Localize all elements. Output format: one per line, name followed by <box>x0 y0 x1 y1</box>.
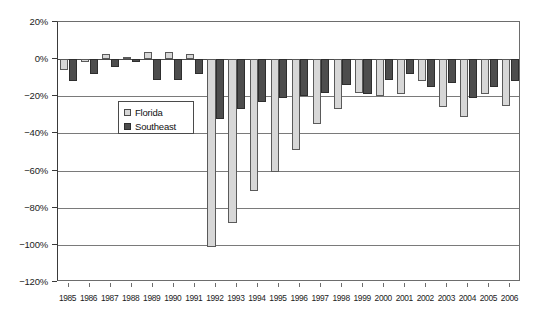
y-axis-tick-label: −40% <box>24 127 48 138</box>
plot-area: Florida Southeast <box>57 21 520 281</box>
legend-swatch-florida <box>124 109 131 116</box>
bar-southeast-1987 <box>111 59 119 66</box>
x-axis-tick-label-1991: 1991 <box>185 293 202 303</box>
legend-item-southeast: Southeast <box>124 119 189 133</box>
bar-florida-1992 <box>207 59 215 247</box>
bar-southeast-1988 <box>132 59 140 62</box>
x-axis-tick-label-2003: 2003 <box>438 293 455 303</box>
bar-florida-2002 <box>418 59 426 81</box>
x-axis-tick-mark <box>131 283 132 287</box>
x-axis-tick-mark <box>488 283 489 287</box>
y-axis-tick-label: −20% <box>24 90 48 101</box>
y-axis-tick-label: −120% <box>19 276 48 287</box>
bar-florida-2003 <box>439 59 447 107</box>
x-axis-tick-label-1995: 1995 <box>269 293 286 303</box>
bar-florida-1989 <box>144 52 152 59</box>
bar-southeast-2005 <box>490 59 498 87</box>
x-axis-tick-label-2001: 2001 <box>396 293 413 303</box>
x-axis-tick-label-1999: 1999 <box>354 293 371 303</box>
legend-label-southeast: Southeast <box>135 121 176 132</box>
x-axis-tick-label-1990: 1990 <box>164 293 181 303</box>
x-axis-tick-mark <box>362 283 363 287</box>
gridline <box>58 245 519 246</box>
x-axis-tick-mark <box>341 283 342 287</box>
x-axis-tick-mark <box>509 283 510 287</box>
bar-florida-1985 <box>60 59 68 70</box>
x-axis-tick-mark <box>446 283 447 287</box>
bar-southeast-2002 <box>427 59 435 87</box>
x-axis-tick-label-1989: 1989 <box>143 293 160 303</box>
bar-southeast-1995 <box>279 59 287 98</box>
x-axis-tick-label-2006: 2006 <box>501 293 518 303</box>
bar-southeast-2006 <box>511 59 519 81</box>
bar-southeast-1993 <box>237 59 245 109</box>
bar-florida-2001 <box>397 59 405 94</box>
x-axis-tick-mark <box>89 283 90 287</box>
bar-florida-1993 <box>228 59 236 222</box>
bar-florida-1996 <box>292 59 300 150</box>
bar-southeast-2001 <box>406 59 414 74</box>
bar-florida-1988 <box>123 57 131 59</box>
x-axis-tick-mark <box>68 283 69 287</box>
bar-florida-1999 <box>355 59 363 92</box>
x-axis-tick-label-1993: 1993 <box>227 293 244 303</box>
bar-southeast-1992 <box>216 59 224 118</box>
x-axis-tick-mark <box>299 283 300 287</box>
x-axis-tick-label-1996: 1996 <box>290 293 307 303</box>
x-axis-tick-label-1988: 1988 <box>122 293 139 303</box>
bar-florida-1991 <box>186 54 194 60</box>
x-axis-tick-label-2005: 2005 <box>480 293 497 303</box>
bar-southeast-1986 <box>90 59 98 74</box>
x-axis-tick-mark <box>152 283 153 287</box>
x-axis-tick-mark <box>467 283 468 287</box>
bar-florida-1995 <box>271 59 279 172</box>
legend-label-florida: Florida <box>135 107 163 118</box>
bar-florida-1997 <box>313 59 321 124</box>
bar-southeast-1998 <box>342 59 350 85</box>
x-axis-tick-mark <box>425 283 426 287</box>
bar-southeast-1996 <box>300 59 308 96</box>
x-axis-tick-label-1985: 1985 <box>59 293 76 303</box>
x-axis-tick-mark <box>194 283 195 287</box>
gridline <box>58 171 519 172</box>
x-axis-tick-mark <box>110 283 111 287</box>
bar-southeast-1990 <box>174 59 182 79</box>
bar-florida-1986 <box>81 59 89 62</box>
y-axis-tick-label: 0% <box>35 53 48 64</box>
bar-florida-1994 <box>250 59 258 191</box>
bar-florida-1998 <box>334 59 342 109</box>
bar-southeast-1999 <box>363 59 371 94</box>
gridline <box>58 96 519 97</box>
bar-southeast-2000 <box>385 59 393 79</box>
bar-florida-1987 <box>102 54 110 60</box>
legend-swatch-southeast <box>124 123 131 130</box>
y-axis-tick-label: −100% <box>19 238 48 249</box>
x-axis: 1985198619871988198919901991199219931994… <box>57 283 520 313</box>
x-axis-tick-label-1986: 1986 <box>80 293 97 303</box>
gridline <box>58 208 519 209</box>
bar-southeast-1997 <box>321 59 329 92</box>
x-axis-tick-label-1994: 1994 <box>248 293 265 303</box>
x-axis-tick-mark <box>257 283 258 287</box>
bar-florida-2000 <box>376 59 384 96</box>
x-axis-tick-label-1998: 1998 <box>332 293 349 303</box>
x-axis-tick-mark <box>320 283 321 287</box>
x-axis-tick-label-1997: 1997 <box>311 293 328 303</box>
x-axis-tick-label-1987: 1987 <box>101 293 118 303</box>
bar-florida-2006 <box>502 59 510 105</box>
x-axis-tick-mark <box>173 283 174 287</box>
bar-florida-2005 <box>481 59 489 94</box>
y-axis-tick-label: 20% <box>30 16 48 27</box>
x-axis-tick-label-1992: 1992 <box>206 293 223 303</box>
bar-southeast-1991 <box>195 59 203 74</box>
bar-chart: 20%0%−20%−40%−60%−80%−100%−120% Florida … <box>0 0 536 313</box>
y-axis-tick-label: −80% <box>24 201 48 212</box>
x-axis-tick-label-2000: 2000 <box>375 293 392 303</box>
chart-legend: Florida Southeast <box>118 101 194 134</box>
bar-southeast-2003 <box>448 59 456 83</box>
x-axis-tick-mark <box>278 283 279 287</box>
bar-florida-1990 <box>165 52 173 59</box>
x-axis-tick-mark <box>215 283 216 287</box>
x-axis-tick-label-2002: 2002 <box>417 293 434 303</box>
x-axis-tick-mark <box>383 283 384 287</box>
